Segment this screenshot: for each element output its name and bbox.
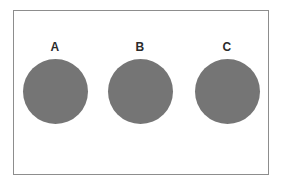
circle-marker-a bbox=[23, 59, 88, 124]
figure-panel: A B C bbox=[13, 10, 269, 175]
circle-marker-c bbox=[195, 59, 260, 124]
circle-label-b: B bbox=[120, 41, 160, 54]
circle-label-a: A bbox=[35, 41, 75, 54]
circle-marker-b bbox=[108, 59, 173, 124]
figure-plot-area: A B C bbox=[14, 11, 268, 174]
figure-root: A B C bbox=[0, 0, 284, 187]
circle-label-c: C bbox=[207, 41, 247, 54]
